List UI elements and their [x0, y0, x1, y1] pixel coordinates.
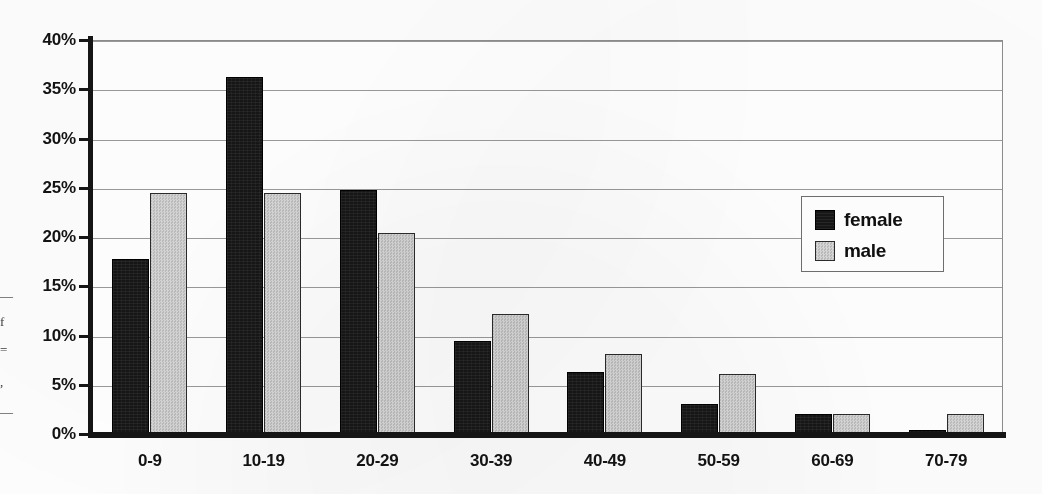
bar-female-0-9	[112, 259, 149, 434]
bar-male-20-29	[378, 233, 415, 434]
bar-male-0-9	[150, 193, 187, 434]
y-axis-tick-label: 5%	[24, 375, 76, 395]
bar-male-10-19	[264, 193, 301, 434]
legend-label-male: male	[844, 241, 886, 260]
y-axis-tick	[79, 138, 89, 141]
scanned-page-background: — f = , — 0%5%10%15%20%25%30%35%40% 0-91…	[0, 0, 1042, 494]
y-axis-tick-label: 20%	[24, 227, 76, 247]
legend-item-female: female	[815, 204, 943, 235]
x-axis-tick-label: 10-19	[207, 451, 321, 471]
y-axis-tick	[79, 187, 89, 190]
y-axis-tick	[79, 384, 89, 387]
bar-female-20-29	[340, 190, 377, 434]
x-axis-tick-label: 60-69	[776, 451, 890, 471]
legend-swatch-female-icon	[815, 210, 835, 230]
legend-item-male: male	[815, 235, 943, 266]
x-axis-tick-label: 20-29	[321, 451, 435, 471]
y-axis-tick	[79, 433, 89, 436]
bar-female-10-19	[226, 77, 263, 434]
y-axis-tick	[79, 88, 89, 91]
y-axis-tick-label: 30%	[24, 129, 76, 149]
x-axis-tick-label: 50-59	[662, 451, 776, 471]
legend-label-female: female	[844, 210, 902, 229]
y-axis-tick-label: 35%	[24, 79, 76, 99]
y-axis-tick	[79, 236, 89, 239]
legend-swatch-male-icon	[815, 241, 835, 261]
bar-female-50-59	[681, 404, 718, 434]
x-axis-tick-label: 0-9	[93, 451, 207, 471]
y-axis-tick-label: 0%	[24, 424, 76, 444]
bar-male-30-39	[492, 314, 529, 434]
x-axis-tick-label: 30-39	[434, 451, 548, 471]
y-axis-tick-label: 40%	[24, 30, 76, 50]
y-axis-tick-label: 15%	[24, 276, 76, 296]
bar-female-40-49	[567, 372, 604, 434]
y-axis-tick-label: 10%	[24, 326, 76, 346]
bar-male-50-59	[719, 374, 756, 434]
y-axis-tick	[79, 285, 89, 288]
y-axis-tick-label: 25%	[24, 178, 76, 198]
bar-male-40-49	[605, 354, 642, 434]
bar-chart: 0%5%10%15%20%25%30%35%40% 0-910-1920-293…	[0, 0, 1042, 494]
x-axis-line	[88, 432, 1006, 438]
x-axis-tick-label: 70-79	[889, 451, 1003, 471]
y-axis-tick	[79, 39, 89, 42]
chart-legend: female male	[801, 196, 944, 272]
y-axis-tick	[79, 335, 89, 338]
bar-female-30-39	[454, 341, 491, 434]
gridline	[93, 41, 1002, 42]
x-axis-tick-label: 40-49	[548, 451, 662, 471]
